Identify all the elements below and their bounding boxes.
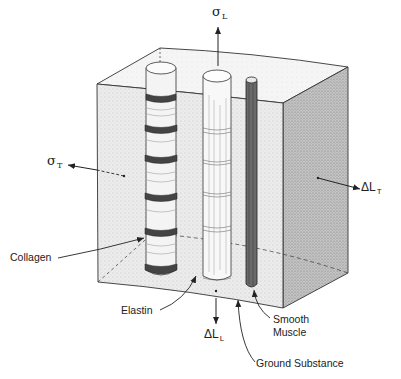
sigma-t-label: σT: [47, 153, 62, 168]
collagen-label: Collagen: [10, 251, 51, 263]
sigma-t-arrow: [68, 165, 97, 170]
smooth-muscle-fiber: [246, 77, 257, 287]
smooth-muscle-label-line2: Muscle: [273, 326, 306, 338]
elastin-fiber: [203, 70, 231, 280]
tissue-block-diagram: [0, 0, 401, 379]
ground-substance-label: Ground Substance: [256, 357, 344, 369]
elastin-label: Elastin: [121, 304, 153, 316]
sigma-l-label: σL: [212, 4, 227, 19]
delta-lt-label: ΔLT: [361, 180, 382, 194]
smooth-muscle-label-line1: Smooth: [273, 313, 309, 325]
delta-ll-label: ΔLL: [204, 327, 224, 341]
block-right-face: [283, 67, 348, 308]
ground-substance-leader: [238, 300, 255, 362]
collagen-fiber: [145, 62, 177, 275]
